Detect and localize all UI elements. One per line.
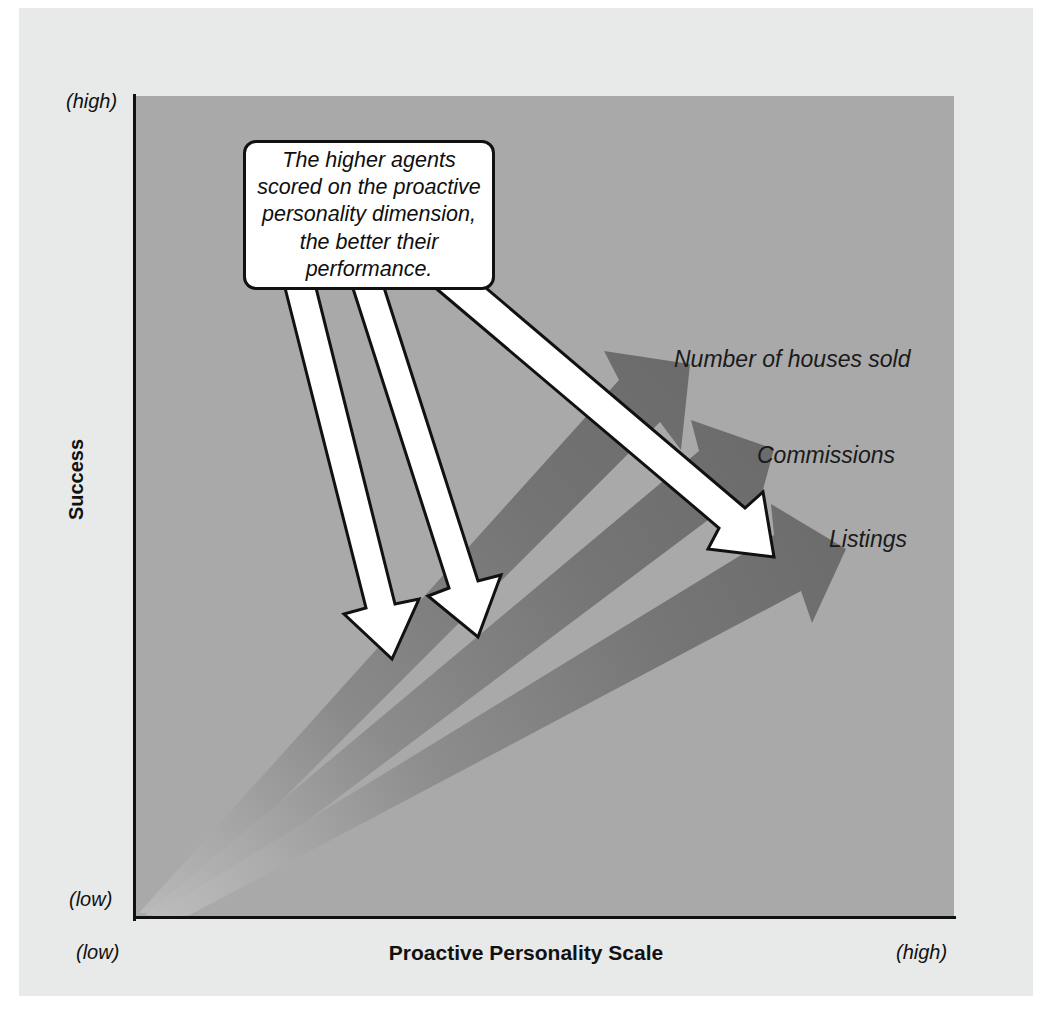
callout-text: The higher agents scored on the proactiv… [249, 147, 489, 282]
series-label-listings: Listings [829, 526, 907, 553]
callout-box: The higher agents scored on the proactiv… [243, 140, 495, 290]
y-axis-title: Success [65, 420, 88, 540]
series-label-commissions: Commissions [757, 442, 895, 469]
y-axis-high-label: (high) [66, 90, 117, 113]
x-axis-title: Proactive Personality Scale [19, 941, 1033, 965]
y-axis-line [133, 94, 136, 921]
callout-pointer-arrows-layer [19, 8, 1033, 996]
series-label-houses-sold: Number of houses sold [674, 346, 911, 373]
figure-plate: The higher agents scored on the proactiv… [19, 8, 1033, 996]
x-axis-line [133, 916, 956, 919]
y-axis-low-label: (low) [69, 888, 112, 911]
callout-pointer-3 [419, 254, 774, 557]
